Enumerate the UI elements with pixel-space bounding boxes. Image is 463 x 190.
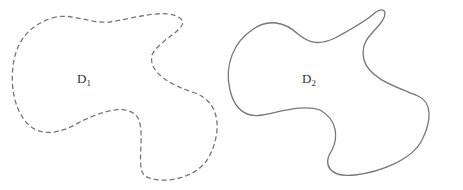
region-d2-label: D2 [302,71,316,88]
region-d2-boundary [228,10,429,176]
region-d1-boundary [12,14,217,180]
regions-diagram: D1 D2 [0,0,463,190]
region-d1-label: D1 [77,71,91,88]
